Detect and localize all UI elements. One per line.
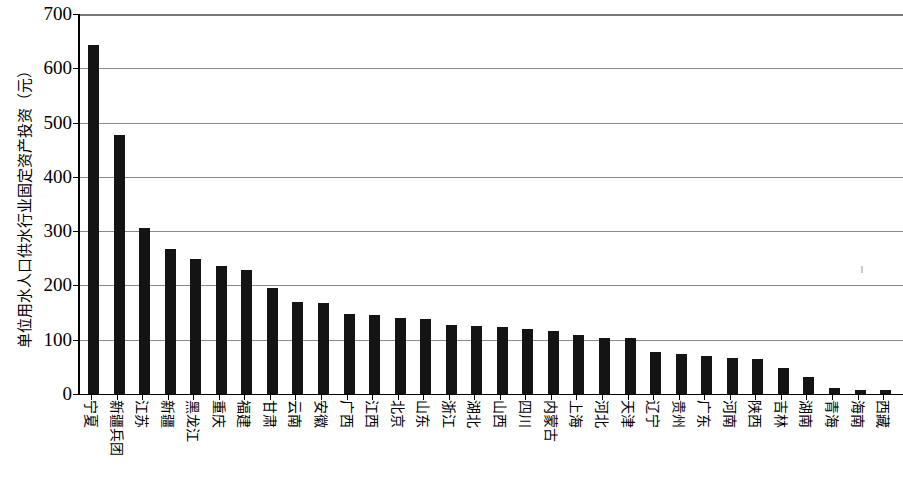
y-tick-mark: [73, 68, 80, 69]
bar: [165, 249, 176, 394]
bar: [471, 326, 482, 394]
bar: [522, 329, 533, 394]
x-axis-label: 新疆: [158, 400, 176, 479]
x-axis-label: 福建: [234, 400, 252, 479]
bar: [880, 390, 891, 394]
plot-area: [78, 14, 903, 395]
x-axis-label: 青海: [822, 400, 840, 479]
x-axis-label: 河北: [592, 400, 610, 479]
x-axis-label: 陕西: [745, 400, 763, 479]
y-tick-label: 0: [26, 384, 72, 403]
bar-chart: 单位用水人口供水行业固定资产投资（元） 70060050040030020010…: [0, 0, 903, 479]
x-axis-label: 宁夏: [81, 400, 99, 479]
bar: [344, 314, 355, 394]
x-axis-label: 江西: [362, 400, 380, 479]
y-tick-label: 100: [26, 330, 72, 349]
x-axis-label: 辽宁: [643, 400, 661, 479]
bar: [216, 266, 227, 394]
x-axis-label: 江苏: [132, 400, 150, 479]
bar: [625, 338, 636, 394]
x-axis-label: 新疆兵团: [107, 400, 125, 479]
y-tick-mark: [73, 177, 80, 178]
bar: [573, 335, 584, 394]
y-tick-mark: [73, 285, 80, 286]
x-axis-label: 广西: [337, 400, 355, 479]
bar: [292, 302, 303, 394]
bar: [752, 359, 763, 394]
bar: [318, 303, 329, 394]
x-axis-category-labels: 宁夏新疆兵团江苏新疆黑龙江重庆福建甘肃云南安徽广西江西北京山东浙江湖北山西四川内…: [78, 398, 901, 479]
y-tick-label: 700: [26, 4, 72, 23]
y-tick-label: 200: [26, 275, 72, 294]
x-axis-label: 西藏: [873, 400, 891, 479]
bar: [267, 288, 278, 394]
bar: [395, 318, 406, 394]
x-axis-label: 河南: [720, 400, 738, 479]
y-tick-label: 300: [26, 221, 72, 240]
x-axis-label: 四川: [515, 400, 533, 479]
bars-group: [80, 14, 903, 394]
bar: [241, 270, 252, 394]
bar: [676, 354, 687, 394]
bar: [803, 377, 814, 394]
x-axis-label: 天津: [618, 400, 636, 479]
bar: [114, 135, 125, 394]
x-axis-label: 吉林: [771, 400, 789, 479]
bar: [369, 315, 380, 394]
bar: [650, 352, 661, 394]
x-axis-label: 上海: [566, 400, 584, 479]
x-axis-label: 安徽: [311, 400, 329, 479]
bar: [139, 228, 150, 394]
bar: [190, 259, 201, 394]
bar: [88, 45, 99, 394]
scan-artifact-speck: [861, 266, 863, 273]
y-tick-mark: [73, 231, 80, 232]
x-axis-label: 湖南: [796, 400, 814, 479]
x-axis-label: 黑龙江: [183, 400, 201, 479]
x-axis-label: 北京: [388, 400, 406, 479]
bar: [778, 368, 789, 394]
x-axis-label: 云南: [285, 400, 303, 479]
x-axis-label: 海南: [848, 400, 866, 479]
x-axis-label: 山东: [413, 400, 431, 479]
bar: [446, 325, 457, 394]
x-axis-label: 甘肃: [260, 400, 278, 479]
bar: [855, 390, 866, 394]
x-axis-label: 湖北: [464, 400, 482, 479]
bar: [829, 388, 840, 395]
x-axis-label: 重庆: [209, 400, 227, 479]
x-axis-label: 内蒙古: [541, 400, 559, 479]
y-tick-mark: [73, 340, 80, 341]
y-tick-mark: [73, 14, 80, 15]
y-axis-tick-labels: 7006005004003002001000: [20, 0, 72, 479]
bar: [599, 338, 610, 394]
bar: [727, 358, 738, 394]
bar: [701, 356, 712, 394]
y-tick-label: 500: [26, 113, 72, 132]
y-tick-label: 600: [26, 58, 72, 77]
x-axis-label: 广东: [694, 400, 712, 479]
bar: [548, 331, 559, 395]
y-tick-mark: [73, 123, 80, 124]
bar: [497, 327, 508, 394]
x-axis-label: 山西: [490, 400, 508, 479]
x-axis-label: 浙江: [439, 400, 457, 479]
y-tick-label: 400: [26, 167, 72, 186]
bar: [420, 319, 431, 394]
x-axis-label: 贵州: [669, 400, 687, 479]
